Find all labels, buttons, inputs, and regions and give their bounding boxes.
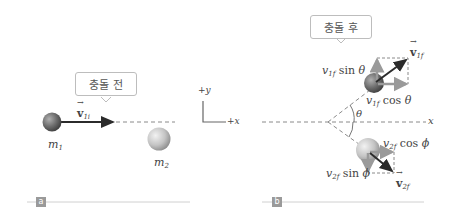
v1f-cos-theta-label: v1f cos θ <box>366 95 411 108</box>
v2f-label: v2f <box>396 178 409 191</box>
callout-before-collision: 충돌 전 <box>75 72 137 96</box>
v1f-label: v1f <box>410 47 423 60</box>
angle: θ <box>359 64 366 77</box>
ball-m1 <box>43 113 62 132</box>
m-sub: 1 <box>58 144 62 152</box>
ball-m2 <box>148 128 171 151</box>
vec-symbol: v <box>396 177 402 190</box>
theta-arc <box>350 105 354 122</box>
v2f-cos-phi-label: v2f cos ϕ <box>383 138 429 151</box>
fn: sin <box>339 64 355 77</box>
velocity-1i-label: v1i <box>77 108 90 121</box>
v2f-sin-phi-label: v2f sin ϕ <box>326 168 370 181</box>
callout-text: 충돌 후 <box>324 19 358 35</box>
vec-sub: 2f <box>402 183 409 191</box>
vec-symbol: v <box>77 107 83 120</box>
fn: cos <box>400 137 418 150</box>
angle: ϕ <box>363 167 371 180</box>
panel-a-tag: a <box>36 197 46 207</box>
plus-x-label: +x <box>227 117 240 126</box>
v1f-sin-theta-label: v1f sin θ <box>322 65 365 78</box>
panel-b-tag: b <box>272 197 282 207</box>
collision-diagram <box>0 0 452 221</box>
v-sub: 2f <box>332 173 339 181</box>
ball2-trajectory <box>328 122 363 147</box>
m-symbol: m <box>154 156 164 169</box>
angle: ϕ <box>422 137 430 150</box>
x-axis-label: x <box>428 116 434 126</box>
axes-indicator <box>203 101 226 122</box>
callout-a-pointer <box>101 97 111 102</box>
v-sub: 1f <box>372 100 379 108</box>
mass-1-label: m1 <box>48 139 63 152</box>
ball1-trajectory <box>328 90 370 122</box>
vec-sub: 1i <box>83 113 90 121</box>
fn: sin <box>343 167 359 180</box>
vec-symbol: v <box>410 46 416 59</box>
m-symbol: m <box>48 138 58 151</box>
mass-2-label: m2 <box>154 157 169 170</box>
v-sub: 2f <box>389 143 396 151</box>
m-sub: 2 <box>164 162 168 170</box>
phi-arc <box>349 122 353 137</box>
callout-text: 충돌 전 <box>89 76 123 92</box>
vec-sub: 1f <box>416 52 423 60</box>
v2f-arrow <box>370 153 392 171</box>
plus-y-label: +y <box>198 86 211 95</box>
fn: cos <box>383 94 401 107</box>
v1f-arrow <box>376 60 406 82</box>
callout-after-collision: 충돌 후 <box>310 15 372 39</box>
v-sub: 1f <box>328 70 335 78</box>
angle: θ <box>405 94 412 107</box>
theta-label: θ <box>356 109 362 119</box>
